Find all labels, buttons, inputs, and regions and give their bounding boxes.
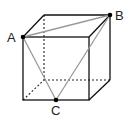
- cube-diagram: A B C: [0, 0, 132, 121]
- segment-AB: [23, 15, 110, 37]
- point-A: [21, 35, 26, 40]
- edge-bottom-right-depth: [89, 80, 110, 100]
- point-B: [108, 13, 113, 18]
- hidden-edge-bottom-left-depth: [23, 80, 44, 100]
- point-C: [54, 98, 59, 103]
- segment-AC: [23, 37, 56, 100]
- label-B: B: [115, 8, 124, 23]
- label-C: C: [51, 103, 60, 118]
- label-A: A: [7, 30, 16, 45]
